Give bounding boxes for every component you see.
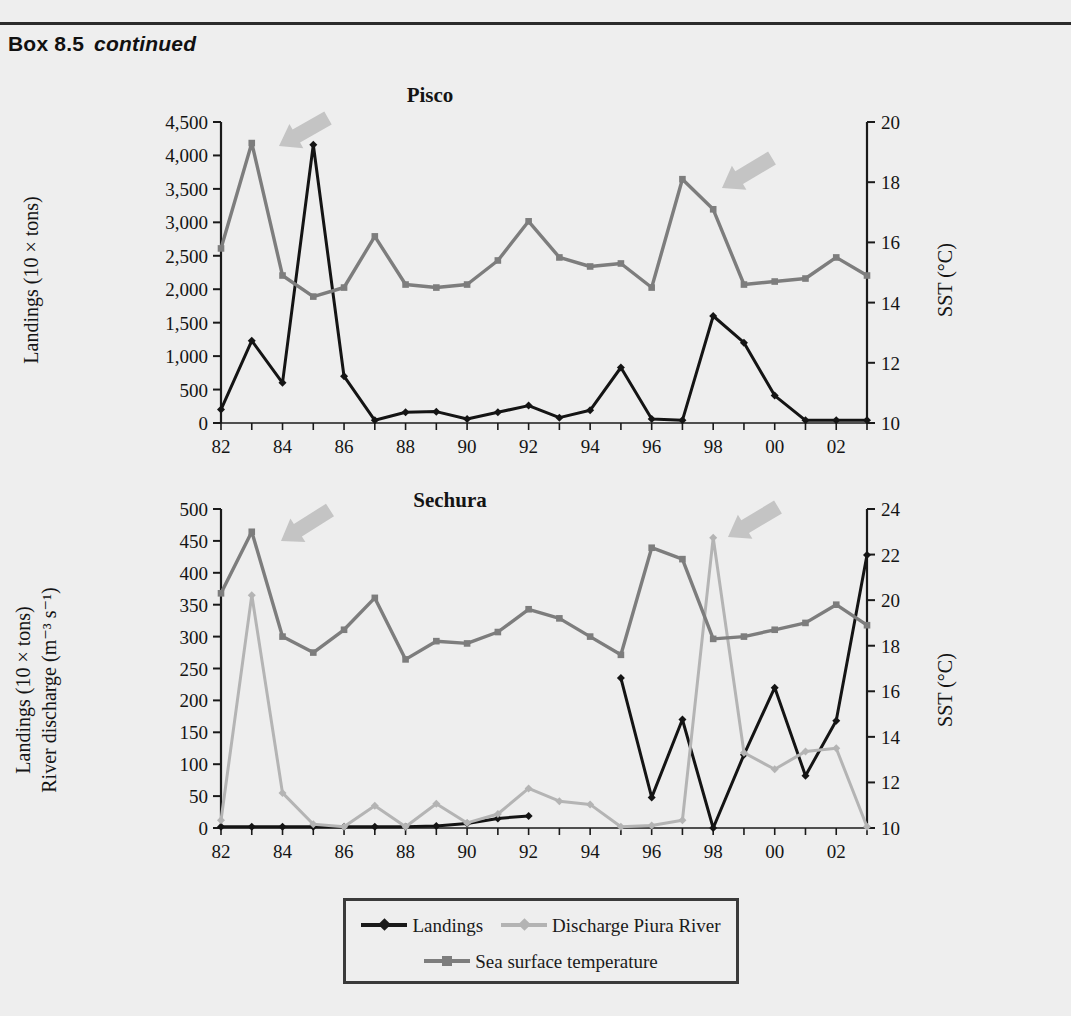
pisco-marker-sst [464,281,471,288]
chart-legend: Landings Discharge Piura River Sea surfa… [343,898,739,984]
legend-swatch-discharge [501,918,547,932]
sechura-y2-tick-label: 18 [881,636,900,657]
sechura-marker-sst [771,626,778,633]
pisco-marker-sst [587,263,594,270]
sechura-marker-sst [279,633,286,640]
sechura-marker-landings [525,812,533,820]
sechura-y2-axis-label: SST (°C) [934,653,957,727]
sechura-x-tick-label: 94 [581,841,601,862]
sechura-marker-discharge-piura-river [248,591,256,599]
page-background: Box 8.5continued 05001,0001,5002,0002,50… [0,0,1071,1016]
sechura-y2-tick-label: 20 [881,590,900,611]
pisco-arrow-1 [722,152,776,190]
pisco-marker-sst [310,293,317,300]
sechura-marker-sst [710,636,717,643]
box-label: Box 8.5continued [8,32,196,56]
sechura-marker-sst [218,590,225,597]
sechura-line-discharge-piura-river [221,538,867,827]
sechura-marker-discharge-piura-river [217,816,225,824]
pisco-marker-sst [802,275,809,282]
pisco-marker-sst [372,233,379,240]
sechura-marker-landings [279,823,287,831]
pisco-y-axis-label: Landings (10 × tons) [20,196,43,363]
sechura-annotation-arrows [281,501,782,542]
pisco-marker-sst [833,254,840,261]
sechura-arrow-1 [728,501,782,539]
pisco-y-tick-label: 0 [199,413,209,434]
sechura-marker-discharge-piura-river [678,816,686,824]
sechura-x-tick-label: 86 [335,841,354,862]
pisco-series [217,140,871,425]
pisco-marker-landings [525,402,533,410]
sechura-marker-sst [372,595,379,602]
chart-sechura: 0501001502002503003504004505001012141618… [0,485,1071,885]
pisco-x-tick-label: 88 [396,436,415,457]
pisco-marker-landings [402,408,410,416]
sechura-y-tick-label: 200 [180,690,209,711]
pisco-marker-sst [679,176,686,183]
pisco-x-tick-label: 96 [642,436,661,457]
sechura-y-tick-label: 50 [189,786,208,807]
legend-label-discharge: Discharge Piura River [552,916,721,935]
pisco-y2-tick-label: 18 [881,172,900,193]
sechura-marker-sst [648,544,655,551]
pisco-x-tick-label: 94 [581,436,601,457]
pisco-marker-sst [556,254,563,261]
chart-sechura-svg: 0501001502002503003504004505001012141618… [0,485,1071,885]
legend-item-sst: Sea surface temperature [424,952,658,971]
sechura-y-tick-label: 350 [180,595,209,616]
pisco-marker-sst [248,140,255,147]
sechura-marker-sst [679,556,686,563]
sechura-x-tick-label: 92 [519,841,538,862]
sechura-y-tick-label: 250 [180,659,209,680]
pisco-y2-axis-label: SST (°C) [934,243,957,317]
pisco-marker-landings [463,415,471,423]
sechura-marker-sst [495,629,502,636]
sechura-marker-discharge-piura-river [863,823,871,831]
sechura-y2-tick-label: 22 [881,545,900,566]
pisco-axes: 05001,0001,5002,0002,5003,0003,5004,0004… [165,112,900,457]
pisco-arrow-shape-1 [722,152,776,190]
header-rule [0,22,1071,25]
sechura-marker-discharge-piura-river [709,534,717,542]
pisco-marker-sst [710,206,717,213]
pisco-y-tick-label: 2,000 [165,279,208,300]
legend-row-1: Landings Discharge Piura River [346,901,736,943]
pisco-marker-sst [525,218,532,225]
sechura-x-tick-label: 88 [396,841,415,862]
legend-row-2: Sea surface temperature [346,943,736,979]
pisco-y2-tick-label: 16 [881,232,900,253]
pisco-marker-sst [341,284,348,291]
sechura-marker-discharge-piura-river [832,744,840,752]
pisco-x-tick-label: 84 [273,436,293,457]
pisco-marker-sst [741,281,748,288]
sechura-x-tick-label: 90 [458,841,477,862]
sechura-y-tick-label: 450 [180,531,209,552]
sechura-y-tick-label: 400 [180,563,209,584]
pisco-marker-sst [648,284,655,291]
pisco-x-tick-label: 02 [827,436,846,457]
sechura-y-tick-label: 500 [180,499,209,520]
legend-label-sst: Sea surface temperature [475,952,658,971]
sechura-x-tick-label: 82 [212,841,231,862]
pisco-x-tick-label: 82 [212,436,231,457]
sechura-marker-landings [678,716,686,724]
sechura-y2-tick-label: 16 [881,681,900,702]
pisco-y-tick-label: 2,500 [165,246,208,267]
sechura-chart-title: Sechura [413,488,487,512]
sechura-arrow-0 [281,504,334,542]
sechura-marker-sst [833,601,840,608]
sechura-x-tick-label: 96 [642,841,661,862]
sechura-y2-tick-label: 24 [881,499,901,520]
pisco-y-tick-label: 1,000 [165,346,208,367]
pisco-x-tick-label: 92 [519,436,538,457]
sechura-marker-sst [556,615,563,622]
pisco-y-tick-label: 3,000 [165,212,208,233]
sechura-marker-landings [371,823,379,831]
sechura-marker-sst [864,622,871,629]
pisco-marker-landings [555,414,563,422]
sechura-series [217,528,871,832]
pisco-y-tick-label: 1,500 [165,313,208,334]
pisco-y-tick-label: 4,500 [165,112,208,133]
pisco-arrow-0 [279,112,332,149]
